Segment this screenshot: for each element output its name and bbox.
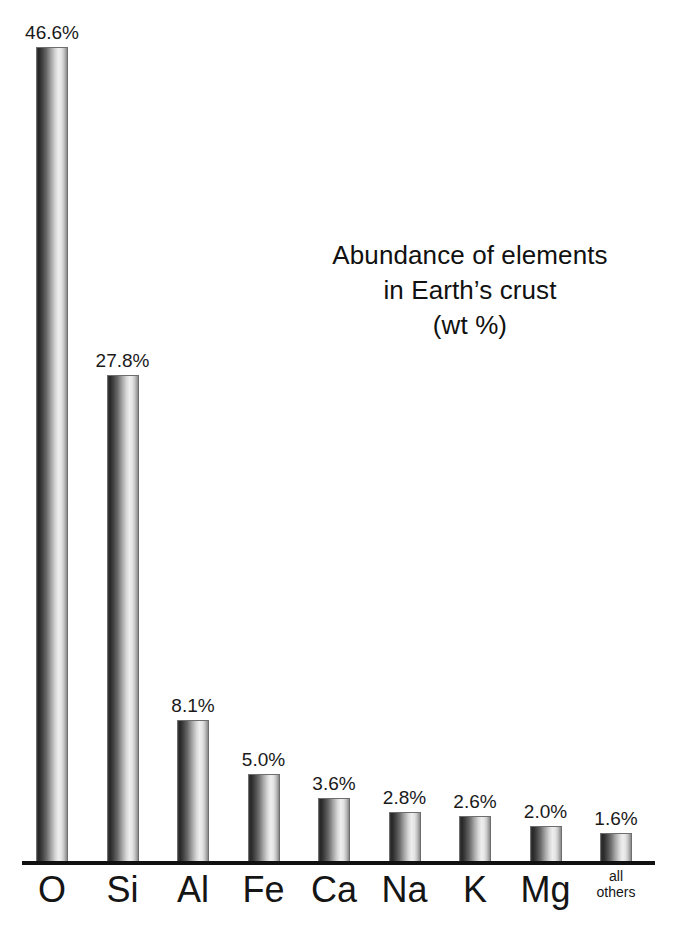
x-axis-label-k: K (463, 870, 487, 910)
bar-group: 2.0%Mg (530, 0, 562, 861)
bar (389, 812, 421, 861)
bar (107, 375, 139, 861)
x-axis-label-fe: Fe (242, 870, 284, 910)
bar (530, 826, 562, 861)
bar-value-label: 3.6% (312, 774, 355, 793)
bar-group: 3.6%Ca (318, 0, 350, 861)
bar-group: 27.8%Si (107, 0, 139, 861)
bar-group: 1.6%allothers (600, 0, 632, 861)
x-axis-label-o: O (38, 870, 66, 910)
x-axis-line (22, 861, 655, 865)
bar-group: 5.0%Fe (248, 0, 280, 861)
x-axis-label-al: Al (177, 870, 209, 910)
x-axis-label-si: Si (106, 870, 138, 910)
bar-group: 46.6%O (36, 0, 68, 861)
bar-group: 2.6%K (459, 0, 491, 861)
bar-value-label: 5.0% (242, 750, 285, 769)
bar-value-label: 46.6% (25, 23, 79, 42)
bar-group: 2.8%Na (389, 0, 421, 861)
chart-page: Abundance of elements in Earth’s crust (… (0, 0, 676, 933)
x-axis-label-line: others (597, 884, 636, 900)
x-axis-label-line: all (597, 868, 636, 884)
bar-value-label: 27.8% (96, 351, 150, 370)
bar-value-label: 2.8% (383, 788, 426, 807)
x-axis-label-na: Na (381, 870, 427, 910)
x-axis-label-mg: Mg (520, 870, 570, 910)
bar (177, 720, 209, 862)
bar-value-label: 8.1% (171, 696, 214, 715)
x-axis-label-ca: Ca (311, 870, 357, 910)
bar-chart-plot-area: 46.6%O27.8%Si8.1%Al5.0%Fe3.6%Ca2.8%Na2.6… (0, 0, 676, 933)
bar-value-label: 2.6% (453, 792, 496, 811)
bar (248, 774, 280, 861)
x-axis-label-all-others: allothers (597, 868, 636, 900)
bar-value-label: 1.6% (594, 809, 637, 828)
bar (459, 816, 491, 861)
bar (600, 833, 632, 861)
bar (318, 798, 350, 861)
bar-value-label: 2.0% (524, 802, 567, 821)
bar-group: 8.1%Al (177, 0, 209, 861)
bar (36, 47, 68, 861)
